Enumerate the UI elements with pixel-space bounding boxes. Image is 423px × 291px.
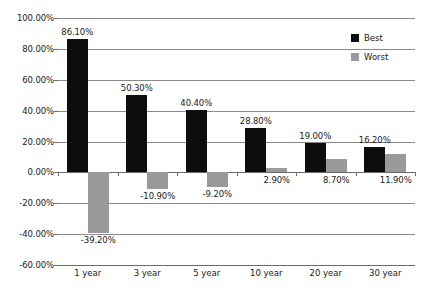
x-axis: 1 year3 year5 year10 year20 year30 year [58,268,415,286]
x-tick-label: 10 year [250,268,282,278]
gridline [58,203,415,204]
bar-best[interactable] [186,110,207,172]
zero-axis-tick [296,172,297,176]
bar-worst[interactable] [88,172,109,233]
gridline [58,18,415,19]
zero-axis-tick [237,172,238,176]
value-label: 19.00% [299,131,331,141]
value-label: 11.90% [380,175,412,185]
bar-best[interactable] [305,143,326,172]
y-tick-label: 80.00% [22,44,54,54]
value-label: 50.30% [121,83,153,93]
x-tick-label: 5 year [193,268,220,278]
y-tick-label: 40.00% [22,106,54,116]
bar-worst[interactable] [147,172,168,189]
value-label: 86.10% [61,27,93,37]
bar-best[interactable] [67,39,88,172]
value-label: 2.90% [263,175,290,185]
chart-legend: BestWorst [351,28,417,66]
y-tick-label: 60.00% [22,75,54,85]
legend-swatch-icon [351,53,359,61]
bar-best[interactable] [245,128,266,172]
bar-worst[interactable] [207,172,228,186]
legend-item-best[interactable]: Best [351,28,417,47]
y-axis: 100.00%80.00%60.00%40.00%20.00%0.00%-20.… [0,18,54,265]
zero-axis-tick [177,172,178,176]
y-tick-label: -60.00% [19,260,54,270]
legend-item-worst[interactable]: Worst [351,47,417,66]
zero-axis-tick [415,172,416,176]
legend-label: Best [364,33,383,43]
gridline [58,111,415,112]
y-tick-label: -40.00% [19,229,54,239]
x-tick-label: 30 year [369,268,401,278]
value-label: 16.20% [359,135,391,145]
value-label: -9.20% [203,189,232,199]
bar-worst[interactable] [326,159,347,172]
legend-label: Worst [364,52,388,62]
gridline [58,265,415,266]
value-label: 8.70% [323,175,350,185]
bar-chart: 100.00%80.00%60.00%40.00%20.00%0.00%-20.… [0,0,423,291]
bar-best[interactable] [126,95,147,173]
y-tick-label: 0.00% [27,167,54,177]
y-tick-label: 20.00% [22,137,54,147]
x-tick-label: 1 year [74,268,101,278]
zero-axis-tick [356,172,357,176]
value-label: 28.80% [240,116,272,126]
legend-swatch-icon [351,34,359,42]
bar-best[interactable] [364,147,385,172]
x-tick-label: 3 year [134,268,161,278]
value-label: 40.40% [180,98,212,108]
x-tick-label: 20 year [310,268,342,278]
zero-axis-tick [58,172,59,176]
y-tick-label: 100.00% [17,13,54,23]
value-label: -39.20% [81,235,116,245]
bar-worst[interactable] [266,168,287,172]
bar-worst[interactable] [385,154,406,172]
value-label: -10.90% [140,191,175,201]
y-tick-label: -20.00% [19,198,54,208]
zero-axis-tick [118,172,119,176]
gridline [58,80,415,81]
